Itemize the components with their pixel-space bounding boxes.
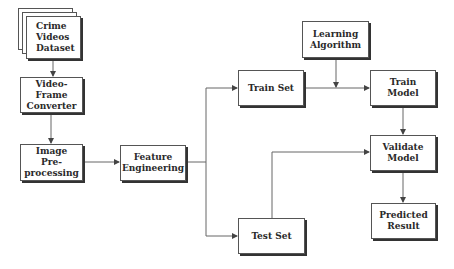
node-crime-videos-dataset: Crime Videos Dataset — [26, 16, 81, 59]
dataset-label-line1: Crime — [36, 21, 75, 32]
node-feature-engineering: Feature Engineering — [120, 145, 186, 181]
train-model-label-line2: Model — [387, 88, 418, 99]
train-set-label: Train Set — [248, 83, 294, 94]
image-pre-label-line1: Image Pre- — [24, 146, 79, 168]
video-frame-label-line1: Video-Frame — [24, 79, 79, 101]
train-model-label-line1: Train — [387, 77, 418, 88]
node-video-frame-converter: Video-Frame Converter — [20, 77, 83, 113]
validate-label-line2: Model — [383, 153, 424, 164]
node-test-set: Test Set — [238, 218, 305, 254]
test-set-label: Test Set — [251, 231, 291, 242]
learning-label-line1: Learning — [310, 29, 361, 40]
node-validate-model: Validate Model — [370, 135, 436, 171]
video-frame-label-line2: Converter — [24, 101, 79, 112]
learning-label-line2: Algorithm — [310, 40, 361, 51]
flowchart-canvas: Crime Videos Dataset Video-Frame Convert… — [0, 0, 454, 269]
image-pre-label-line2: processing — [24, 168, 79, 179]
node-learning-algorithm: Learning Algorithm — [302, 21, 369, 58]
feature-label-line2: Engineering — [122, 163, 184, 174]
feature-label-line1: Feature — [122, 152, 184, 163]
dataset-label-line2: Videos — [36, 32, 75, 43]
node-image-preprocessing: Image Pre- processing — [20, 144, 83, 181]
validate-label-line1: Validate — [383, 142, 424, 153]
predicted-label-line1: Predicted — [379, 210, 428, 221]
predicted-label-line2: Result — [379, 221, 428, 232]
node-predicted-result: Predicted Result — [371, 203, 436, 239]
node-train-model: Train Model — [370, 70, 436, 106]
node-train-set: Train Set — [238, 70, 304, 106]
dataset-label-line3: Dataset — [36, 43, 75, 54]
